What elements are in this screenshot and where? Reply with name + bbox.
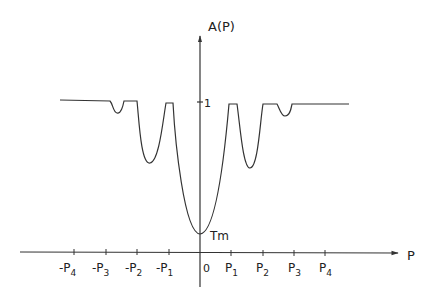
svg-text:P3: P3: [288, 261, 301, 278]
absorption-diagram: A(P) P 1 Tm 0 -P4 -P3 -P2 -P1 P1 P2 P3 P…: [0, 0, 437, 300]
x-axis: [20, 252, 398, 253]
svg-text:-P3: -P3: [92, 261, 109, 278]
x-axis-label: P: [407, 248, 415, 263]
y-axis-label: A(P): [208, 19, 235, 34]
svg-text:P2: P2: [256, 261, 269, 278]
svg-text:-P1: -P1: [156, 261, 173, 278]
svg-text:-P2: -P2: [125, 261, 142, 278]
svg-text:-P4: -P4: [59, 261, 77, 278]
unity-label: 1: [204, 97, 211, 110]
minimum-label: Tm: [209, 229, 229, 243]
origin-label: 0: [203, 262, 210, 275]
svg-text:P4: P4: [319, 261, 332, 278]
absorption-curve: [60, 100, 349, 234]
svg-text:P1: P1: [225, 261, 238, 278]
x-tick-labels: -P4 -P3 -P2 -P1 P1 P2 P3 P4: [59, 261, 332, 278]
